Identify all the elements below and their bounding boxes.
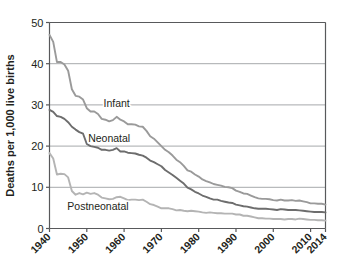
y-tick-label-30: 30 [31, 99, 43, 111]
y-axis-title: Deaths per 1,000 live births [4, 54, 16, 196]
y-tick-label-40: 40 [31, 58, 43, 70]
x-tick-label-2000: 2000 [252, 230, 277, 255]
y-tick-label-10: 10 [31, 181, 43, 193]
x-tick-label-1950: 1950 [65, 230, 90, 255]
y-tick-label-50: 50 [31, 17, 43, 29]
x-tick-label-1960: 1960 [103, 230, 128, 255]
x-tick-label-1940: 1940 [28, 230, 53, 255]
series-label-infant: Infant [103, 97, 129, 109]
series-label-postneonatal: Postneonatal [67, 200, 128, 212]
x-tick-label-1970: 1970 [140, 230, 165, 255]
infant-mortality-line-chart: 0102030405019401950196019701980199020002… [0, 0, 342, 269]
y-tick-label-20: 20 [31, 140, 43, 152]
series-label-neonatal: Neonatal [88, 132, 130, 144]
x-tick-label-1980: 1980 [177, 230, 202, 255]
chart-canvas: 0102030405019401950196019701980199020002… [0, 0, 342, 269]
x-tick-label-1990: 1990 [214, 230, 239, 255]
plot-area-background [50, 23, 326, 229]
